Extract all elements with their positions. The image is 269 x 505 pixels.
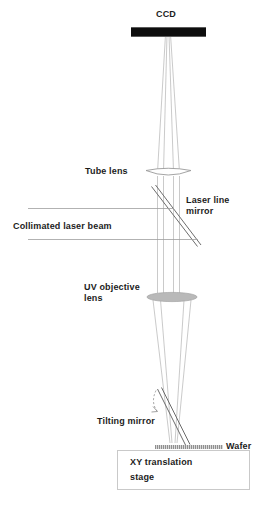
optical-diagram-canvas: CCD Tube lens Laser line mirror Collimat… — [0, 0, 269, 505]
ccd-detector-bar — [131, 27, 206, 37]
ray-bundle-objective-to-wafer — [153, 300, 191, 443]
label-tilting-mirror: Tilting mirror — [97, 416, 155, 427]
tilt-rotation-arc-icon — [152, 391, 158, 413]
label-tube-lens: Tube lens — [85, 166, 128, 177]
label-uv-objective-lens-line2: lens — [84, 293, 103, 304]
label-laser-line-mirror-line2: mirror — [186, 206, 213, 217]
ray-bundle-ccd-to-tube-lens — [158, 35, 180, 173]
label-laser-line-mirror-line1: Laser line — [186, 195, 230, 206]
diagram-vector-layer — [0, 0, 269, 505]
label-xy-translation-stage-line2: stage — [130, 472, 250, 483]
label-wafer: Wafer — [226, 441, 251, 452]
tilting-mirror-glyph — [158, 388, 191, 447]
ray-bundle-tube-lens-to-objective — [158, 176, 180, 293]
label-uv-objective-lens-line1: UV objective — [84, 282, 140, 293]
tube-lens-glyph — [146, 168, 191, 175]
uv-objective-lens-glyph — [147, 292, 197, 301]
label-collimated-laser-beam: Collimated laser beam — [13, 221, 112, 232]
label-ccd: CCD — [156, 9, 176, 20]
xy-translation-stage-box — [117, 450, 250, 490]
wafer-bar — [155, 445, 223, 449]
label-xy-translation-stage-line1: XY translation — [130, 457, 250, 468]
